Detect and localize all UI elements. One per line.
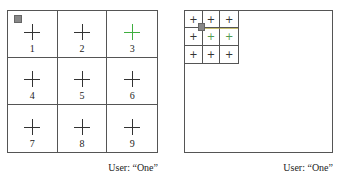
plus-icon: +: [207, 49, 215, 60]
grid-cell-2[interactable]: 2: [58, 11, 108, 58]
small-cell-7[interactable]: +: [185, 46, 203, 63]
small-grid: + + + + + + + + +: [185, 11, 239, 64]
cell-label: 9: [107, 138, 157, 149]
crosshair-icon: [24, 119, 40, 135]
crosshair-icon: [124, 119, 140, 135]
small-cell-5[interactable]: +: [203, 28, 221, 45]
small-cell-6[interactable]: +: [220, 28, 238, 45]
cell-label: 8: [58, 138, 107, 149]
crosshair-icon: [74, 71, 90, 87]
grid-cell-7[interactable]: 7: [8, 105, 58, 152]
cell-label: 7: [8, 138, 57, 149]
grid-cell-6[interactable]: 6: [107, 58, 157, 105]
plus-icon-highlighted: +: [207, 31, 215, 42]
crosshair-icon: [74, 119, 90, 135]
small-cell-3[interactable]: +: [220, 11, 238, 28]
small-cell-9[interactable]: +: [220, 46, 238, 63]
plus-icon: +: [225, 14, 233, 25]
cell-label: 4: [8, 90, 57, 101]
plus-icon: +: [189, 31, 197, 42]
cell-label: 6: [107, 90, 157, 101]
grid-cell-1[interactable]: 1: [8, 11, 58, 58]
crosshair-icon: [24, 24, 40, 40]
plus-icon: +: [189, 14, 197, 25]
grid-cell-9[interactable]: 9: [107, 105, 157, 152]
crosshair-icon: [124, 71, 140, 87]
small-cell-8[interactable]: +: [203, 46, 221, 63]
crosshair-icon: [24, 71, 40, 87]
grid-cell-5[interactable]: 5: [58, 58, 108, 105]
plus-icon-highlighted: +: [225, 31, 233, 42]
grid-cell-8[interactable]: 8: [58, 105, 108, 152]
plus-icon: +: [189, 49, 197, 60]
cell-label: 5: [58, 90, 107, 101]
cell-label: 2: [58, 43, 107, 54]
cell-label: 1: [8, 43, 57, 54]
cursor-square-icon: [198, 23, 205, 31]
left-caption: User: “One”: [108, 162, 158, 173]
right-caption: User: “One”: [283, 162, 333, 173]
plus-icon: +: [225, 49, 233, 60]
cursor-square-icon: [14, 15, 22, 23]
right-outer-box: + + + + + + + + +: [184, 10, 333, 153]
crosshair-icon-highlighted: [124, 24, 140, 40]
small-cell-2[interactable]: +: [203, 11, 221, 28]
grid-cell-4[interactable]: 4: [8, 58, 58, 105]
cell-label: 3: [107, 43, 157, 54]
grid-cell-3[interactable]: 3: [107, 11, 157, 58]
left-grid: 1 2 3 4 5 6 7 8: [7, 10, 158, 153]
crosshair-icon: [74, 24, 90, 40]
plus-icon: +: [207, 14, 215, 25]
